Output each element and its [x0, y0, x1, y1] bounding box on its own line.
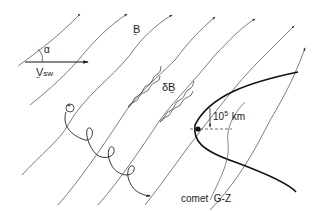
field-line-4 [58, 17, 215, 205]
scale-label: 105 km [213, 110, 245, 122]
field-line-7 [210, 48, 305, 210]
alpha-angle-arc [38, 49, 43, 62]
scale-exponent: 5 [224, 110, 228, 117]
scale-unit: km [232, 111, 245, 122]
comet-name-label: comet G-Z [181, 193, 231, 204]
delta-b-waves [128, 66, 194, 122]
velocity-label: Vsw ~ [36, 66, 53, 80]
field-line-2 [30, 14, 127, 105]
delta-b-label: δB ~ [162, 81, 175, 95]
b-field-label: B ~ [133, 23, 140, 37]
field-line-1 [18, 14, 80, 66]
alpha-label: α [44, 44, 50, 55]
scale-base: 10 [213, 111, 224, 122]
field-lines [18, 14, 305, 210]
bow-shock [195, 72, 298, 192]
velocity-subscript: sw [43, 69, 53, 78]
ion-plus-sign: + [67, 101, 72, 110]
comet-diagram [0, 0, 319, 211]
